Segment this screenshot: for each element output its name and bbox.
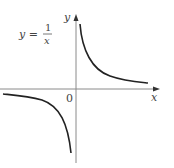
- equation-denominator: x: [44, 35, 50, 46]
- equation-lhs: y =: [18, 28, 38, 41]
- y-axis-arrow-icon: [74, 14, 79, 21]
- y-axis-label: y: [63, 11, 71, 24]
- origin-label: 0: [66, 92, 73, 105]
- curve-positive-branch: [80, 24, 148, 83]
- hyperbola-graph: y x 0 y = 1 x: [0, 0, 174, 168]
- curve-negative-branch: [3, 94, 71, 153]
- equation-numerator: 1: [45, 22, 51, 33]
- x-axis-label: x: [151, 91, 158, 104]
